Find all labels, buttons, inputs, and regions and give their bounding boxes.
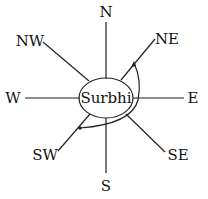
label-e: E [188, 91, 199, 106]
line-nw [43, 42, 89, 81]
line-se [126, 114, 165, 152]
label-nw: NW [16, 34, 45, 49]
line-sw [58, 114, 90, 151]
label-n: N [99, 5, 112, 20]
label-w: W [5, 91, 20, 106]
compass-diagram: N NW NE W E SW SE S Surbhi [0, 0, 208, 199]
label-ne: NE [155, 32, 179, 47]
arc-start-dot-icon [78, 126, 82, 130]
label-se: SE [167, 148, 188, 163]
label-sw: SW [32, 148, 58, 163]
center-label: Surbhi [80, 91, 131, 106]
label-s: S [101, 179, 111, 194]
